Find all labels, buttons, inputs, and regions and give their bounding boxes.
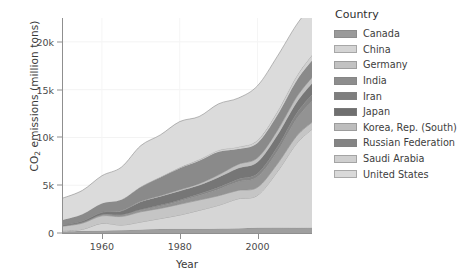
y-axis-tick-mark xyxy=(57,41,62,42)
y-axis-tick-label: 20k xyxy=(20,36,54,47)
legend-swatch xyxy=(334,139,357,147)
legend-label: China xyxy=(363,44,391,55)
legend-item[interactable]: Saudi Arabia xyxy=(334,151,468,167)
legend-swatch xyxy=(334,155,357,163)
x-axis-tick-mark xyxy=(102,234,103,239)
legend-label: Japan xyxy=(363,106,390,117)
legend-item[interactable]: United States xyxy=(334,166,468,182)
legend-item[interactable]: India xyxy=(334,73,468,89)
legend-items: CanadaChinaGermanyIndiaIranJapanKorea, R… xyxy=(334,26,468,182)
legend-label: Germany xyxy=(363,59,408,70)
legend-item[interactable]: Japan xyxy=(334,104,468,120)
legend: Country CanadaChinaGermanyIndiaIranJapan… xyxy=(334,8,468,182)
legend-item[interactable]: Iran xyxy=(334,88,468,104)
x-axis-line xyxy=(62,233,312,234)
stacked-area-series xyxy=(63,18,312,233)
legend-item[interactable]: Russian Federation xyxy=(334,135,468,151)
legend-swatch xyxy=(334,92,357,100)
legend-label: Russian Federation xyxy=(363,137,455,148)
chart-figure: CO2 emissions (million tons) 05k10k15k20… xyxy=(0,0,468,280)
legend-item[interactable]: Canada xyxy=(334,26,468,42)
legend-label: United States xyxy=(363,169,429,180)
y-axis-tick-mark xyxy=(57,89,62,90)
plot-area xyxy=(63,18,312,233)
x-axis-tick-label: 2000 xyxy=(245,241,269,252)
x-axis-tick-label: 1960 xyxy=(90,241,114,252)
legend-label: Canada xyxy=(363,28,400,39)
legend-item[interactable]: Korea, Rep. (South) xyxy=(334,120,468,136)
x-axis-tick-label: 1980 xyxy=(168,241,192,252)
x-axis-tick-mark xyxy=(180,234,181,239)
y-axis-tick-label: 10k xyxy=(20,132,54,143)
legend-label: Saudi Arabia xyxy=(363,153,424,164)
legend-item[interactable]: China xyxy=(334,42,468,58)
legend-title: Country xyxy=(334,8,468,21)
legend-swatch xyxy=(334,77,357,85)
legend-swatch xyxy=(334,30,357,38)
legend-swatch xyxy=(334,123,357,131)
x-axis-title: Year xyxy=(62,258,312,270)
y-axis-tick-mark xyxy=(57,185,62,186)
legend-swatch xyxy=(334,61,357,69)
legend-swatch xyxy=(334,170,357,178)
y-axis-tick-mark xyxy=(57,137,62,138)
y-axis-tick-label: 5k xyxy=(20,180,54,191)
y-axis-ticks: 05k10k15k20k xyxy=(18,0,54,280)
y-axis-tick-label: 15k xyxy=(20,84,54,95)
y-axis-tick-label: 0 xyxy=(20,228,54,239)
legend-label: India xyxy=(363,75,387,86)
y-axis-tick-mark xyxy=(57,233,62,234)
legend-swatch xyxy=(334,45,357,53)
legend-label: Korea, Rep. (South) xyxy=(363,122,457,133)
legend-item[interactable]: Germany xyxy=(334,57,468,73)
x-axis-tick-mark xyxy=(258,234,259,239)
legend-label: Iran xyxy=(363,91,382,102)
legend-swatch xyxy=(334,108,357,116)
